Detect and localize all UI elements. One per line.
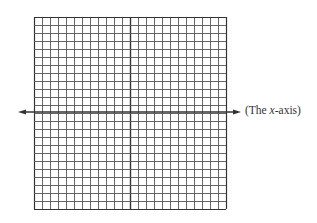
x-axis-label-prefix: (The	[245, 104, 270, 116]
right-arrow-icon	[233, 110, 241, 115]
left-arrow-icon	[18, 110, 26, 115]
grid-lines	[34, 17, 227, 210]
x-axis-label-suffix: -axis)	[275, 104, 301, 116]
x-axis-label: (The x-axis)	[245, 104, 301, 116]
